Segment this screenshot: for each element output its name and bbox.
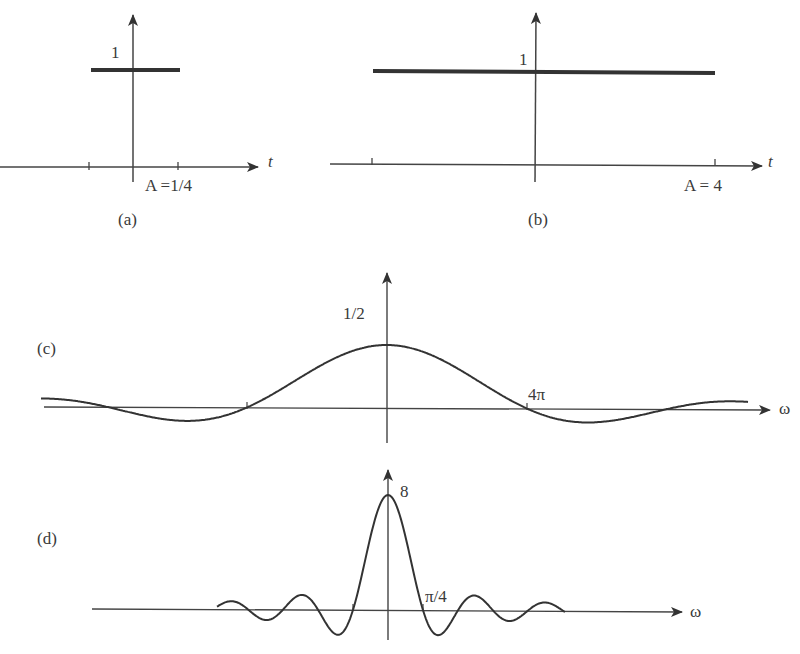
- plot-a-tick-label: A =1/4: [145, 177, 192, 194]
- plot-c-zero-label: 4π: [528, 386, 545, 403]
- plot-d: [92, 470, 682, 640]
- plot-d-sinc-curve: [217, 495, 565, 635]
- plot-b: [330, 13, 762, 182]
- figure-canvas: [0, 0, 800, 654]
- plot-c-axis-label: ω: [779, 400, 790, 417]
- plot-c-sinc-curve: [41, 345, 748, 423]
- plot-d-caption: (d): [37, 530, 57, 547]
- plot-d-axis-label: ω: [690, 603, 701, 620]
- plot-b-y-axis: [535, 13, 536, 182]
- plot-a-axis-label: t: [268, 153, 273, 170]
- plot-b-height-label: 1: [519, 51, 528, 68]
- plot-b-pulse: [373, 71, 715, 73]
- plot-d-x-axis: [92, 609, 682, 612]
- plot-b-x-axis: [330, 164, 762, 166]
- plot-d-zero-label: π/4: [425, 588, 447, 605]
- plot-b-axis-label: t: [768, 153, 773, 170]
- plot-b-tick-label: A = 4: [684, 177, 722, 194]
- plot-a-height-label: 1: [111, 44, 120, 61]
- plot-a: [0, 15, 258, 182]
- plot-a-caption: (a): [118, 211, 137, 228]
- plot-b-caption: (b): [528, 211, 548, 228]
- plot-c-peak-label: 1/2: [343, 305, 365, 322]
- plot-c: [41, 273, 770, 443]
- plot-c-caption: (c): [37, 340, 56, 357]
- plot-d-peak-label: 8: [400, 483, 409, 500]
